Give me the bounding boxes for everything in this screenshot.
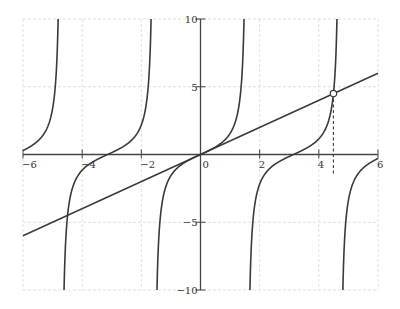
x-tick-label: 2 — [259, 159, 265, 170]
x-tick-label: 4 — [318, 159, 324, 170]
x-tick-label: −6 — [22, 159, 37, 170]
intersection-annotation — [330, 90, 336, 174]
x-tick-label: 6 — [377, 159, 383, 170]
x-tick-label: −2 — [140, 159, 155, 170]
y-tick-label: −5 — [183, 217, 198, 228]
tan-vs-x-chart: −6−4−20246105−5−10 — [0, 0, 400, 309]
y-tick-label: 10 — [185, 14, 198, 25]
y-tick-label: 5 — [191, 82, 197, 93]
x-tick-label: 0 — [203, 159, 209, 170]
y-tick-label: −10 — [176, 285, 197, 296]
